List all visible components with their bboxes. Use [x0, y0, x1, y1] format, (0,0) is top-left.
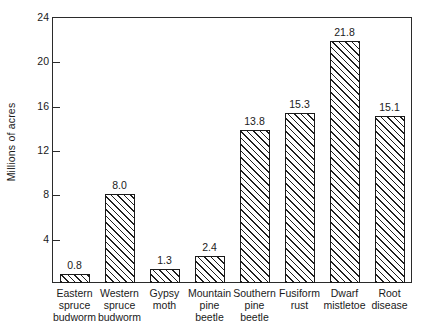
bar-chart: Millions of acres 4812162024 0.88.01.32.… [0, 0, 434, 336]
x-category-label-line: beetle [230, 311, 279, 323]
x-category-label-line: mistletoe [320, 299, 369, 311]
x-category-label-line: Mountain [185, 287, 234, 299]
bar-value-label: 2.4 [182, 242, 238, 253]
bar-value-label: 1.3 [137, 255, 193, 266]
y-tick-label-12: 12 [24, 145, 49, 156]
bar-value-label: 15.1 [362, 102, 418, 113]
bar [330, 41, 360, 283]
bar-value-label: 21.8 [317, 27, 373, 38]
bar [150, 269, 180, 283]
y-axis-tick-labels: 4812162024 [24, 0, 49, 300]
bar [285, 113, 315, 283]
x-category-label-line: disease [365, 299, 414, 311]
bar-value-label: 8.0 [92, 180, 148, 191]
x-category-label: Fusiformrust [275, 287, 324, 311]
y-tick-label-20: 20 [24, 56, 49, 67]
x-category-label-line: budworm [50, 311, 99, 323]
bar-value-label: 0.8 [47, 260, 103, 271]
x-category-label-line: Southern [230, 287, 279, 299]
x-category-label-line: pine [185, 299, 234, 311]
x-category-label: Mountainpinebeetle [185, 287, 234, 324]
x-axis-category-labels: EasternsprucebudwormWesternsprucebudworm… [52, 287, 412, 336]
x-category-label-line: Western [95, 287, 144, 299]
x-category-label: Gypsymoth [140, 287, 189, 311]
x-category-label-line: spruce [95, 299, 144, 311]
x-category-label-line: rust [275, 299, 324, 311]
x-category-label-line: moth [140, 299, 189, 311]
y-axis-title-text: Millions of acres [5, 103, 17, 182]
bar [240, 130, 270, 283]
x-category-label: Westernsprucebudworm [95, 287, 144, 324]
x-category-label-line: pine [230, 299, 279, 311]
y-axis-title: Millions of acres [0, 0, 22, 284]
y-tick-label-16: 16 [24, 100, 49, 111]
x-category-label: Dwarfmistletoe [320, 287, 369, 311]
x-category-label: Southernpinebeetle [230, 287, 279, 324]
bar-value-label: 15.3 [272, 99, 328, 110]
bar-value-label: 13.8 [227, 116, 283, 127]
x-category-label-line: spruce [50, 299, 99, 311]
x-category-label-line: beetle [185, 311, 234, 323]
x-category-label-line: Eastern [50, 287, 99, 299]
bar [195, 256, 225, 283]
x-category-label: Easternsprucebudworm [50, 287, 99, 324]
x-category-label: Rootdisease [365, 287, 414, 311]
x-category-label-line: Root [365, 287, 414, 299]
y-tick-label-4: 4 [24, 233, 49, 244]
x-category-label-line: Gypsy [140, 287, 189, 299]
x-category-label-line: Fusiform [275, 287, 324, 299]
y-tick-label-24: 24 [24, 12, 49, 23]
y-tick-label-8: 8 [24, 189, 49, 200]
bar [105, 194, 135, 283]
x-category-label-line: Dwarf [320, 287, 369, 299]
x-category-label-line: budworm [95, 311, 144, 323]
bar [60, 274, 90, 283]
bars-layer: 0.88.01.32.413.815.321.815.1 [52, 17, 412, 283]
bar [375, 116, 405, 283]
